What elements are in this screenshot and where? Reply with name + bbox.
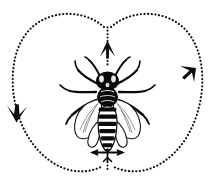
eye-left [99,76,104,83]
abdomen-band-2 [98,115,116,119]
leg-mid-left [70,91,96,92]
abdomen-band-1 [99,108,117,112]
waggle-dance-figure: Honeybee waggle dance figure-eight patte… [0,0,215,194]
abdomen-band-5 [100,136,114,140]
eye-right [111,76,116,83]
abdomen-band-3 [99,122,117,126]
abdomen-band-6 [102,143,113,147]
mouthparts [106,83,110,87]
leg-mid-right [119,91,145,92]
abdomen-band-4 [99,129,116,133]
thorax [97,87,118,107]
figure-canvas [0,0,215,194]
